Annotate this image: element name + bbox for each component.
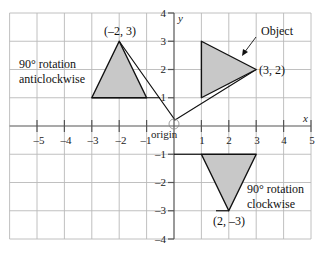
y-tick-label: 1	[161, 91, 167, 103]
x-tick-label: 2	[226, 134, 232, 146]
y-tick-label: 2	[161, 63, 167, 75]
point-label-object: (3, 2)	[259, 63, 285, 77]
x-tick-label: 5	[309, 134, 315, 146]
x-tick-label: –5	[33, 134, 46, 146]
object-arrow	[244, 37, 256, 53]
x-tick-label: –2	[115, 134, 127, 146]
y-tick-label: –4	[154, 233, 167, 245]
x-tick-label: 1	[199, 134, 205, 146]
rotation-diagram: –5 –4 –3 –2 –1 1 2 3 4 5 4 3 2 1 –1 –2 –…	[0, 0, 320, 255]
y-tick-label: –2	[154, 176, 166, 188]
point-label-clockwise: (2, –3)	[213, 214, 245, 228]
y-tick-label: 3	[161, 35, 167, 47]
x-tick-label: –1	[140, 134, 152, 146]
anticlockwise-label-line1: 90° rotation	[19, 57, 76, 71]
origin-label: origin	[151, 128, 178, 140]
x-axis-label: x	[302, 112, 308, 124]
y-tick-label: 4	[161, 7, 167, 19]
y-tick-label: –3	[154, 204, 167, 216]
x-tick-label: 4	[281, 134, 287, 146]
x-tick-label: –4	[60, 134, 73, 146]
arrow-head-icon	[242, 49, 248, 56]
clockwise-label-line1: 90° rotation	[247, 182, 304, 196]
object-label: Object	[261, 24, 294, 38]
y-tick-label: –1	[154, 148, 166, 160]
x-tick-label: 3	[254, 134, 260, 146]
x-tick-label: –3	[87, 134, 100, 146]
y-axis-label: y	[177, 12, 183, 24]
anticlockwise-label-line2: anticlockwise	[19, 72, 85, 86]
clockwise-label-line2: clockwise	[247, 197, 295, 211]
point-label-anticlockwise: (–2, 3)	[104, 24, 136, 38]
